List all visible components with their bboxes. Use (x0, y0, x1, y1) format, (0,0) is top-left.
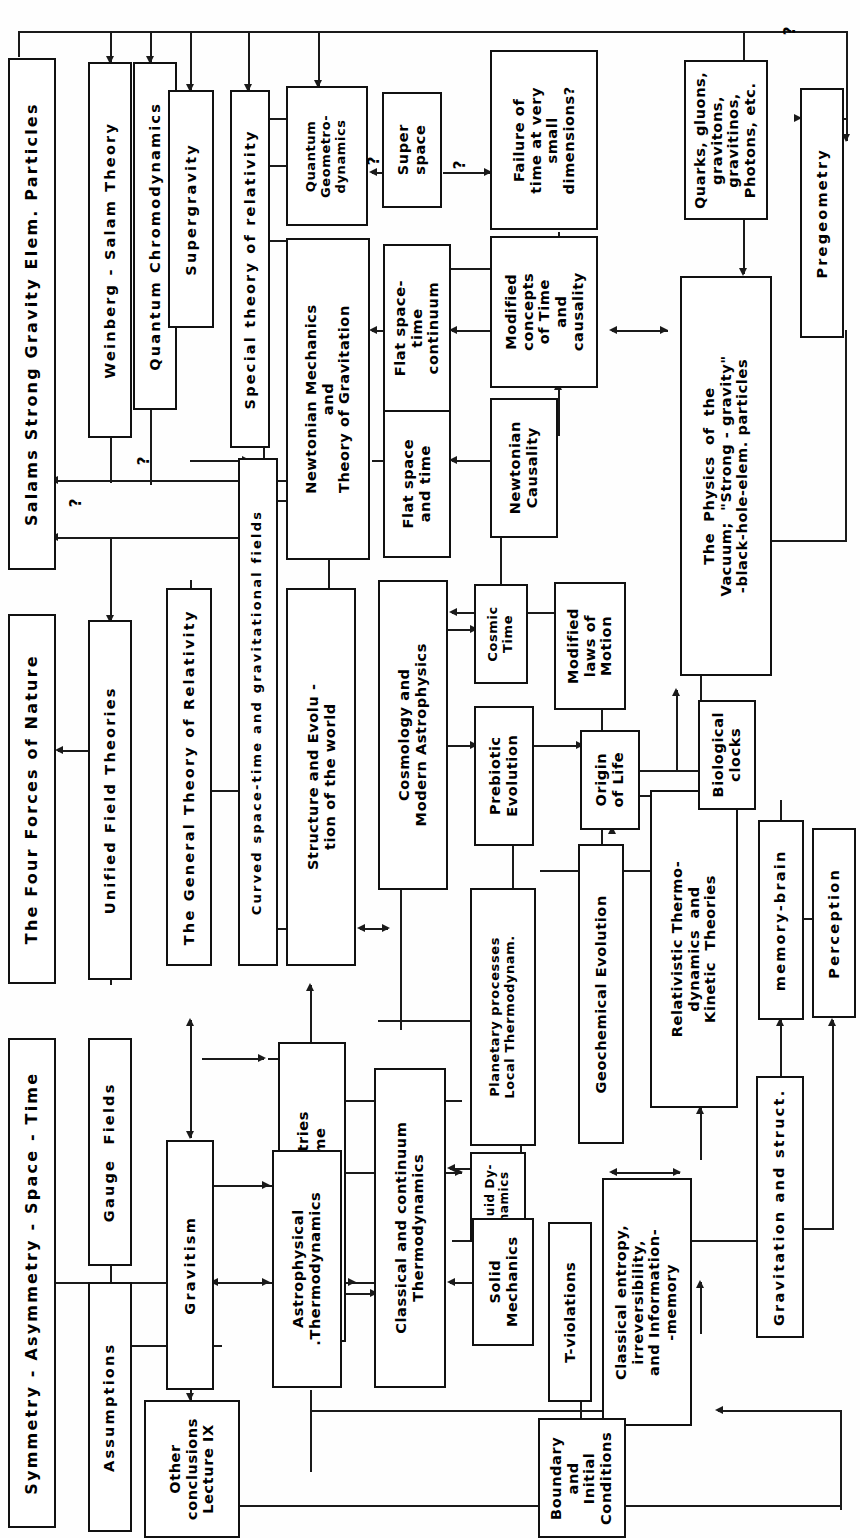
node-label: Gravitism (182, 1216, 199, 1315)
node-label: Relativistic Thermo- dynamics and Kineti… (669, 861, 719, 1038)
arrow-head (447, 1164, 455, 1172)
node-special-relativity[interactable]: Special theory of relativity (230, 90, 270, 448)
node-perception[interactable]: Perception (812, 828, 856, 1018)
connector (190, 31, 192, 91)
node-other-conclusions[interactable]: Other conclusions Lecture IX (144, 1400, 240, 1538)
node-gravitation-and-struct[interactable]: Gravitation and struct. (756, 1076, 804, 1338)
node-label: Unified Field Theories (102, 686, 119, 914)
connector (318, 31, 320, 87)
node-label: The Four Forces of Nature (23, 654, 41, 944)
node-modified-concepts-time[interactable]: Modified concepts of Time and causality (490, 236, 598, 388)
node-label: Curved space-time and gravitational fiel… (251, 509, 266, 914)
node-label: Boundary and Initial Conditions (549, 1431, 616, 1524)
node-label: Flat space and time (400, 439, 433, 529)
node-failure-of-time[interactable]: Failure of time at very small dimensions… (490, 50, 598, 230)
node-biological-clocks[interactable]: Biological clocks (698, 700, 756, 810)
node-label: Modified concepts of Time and causality (502, 273, 585, 352)
node-pregeometry[interactable]: Pregeometry (800, 88, 844, 338)
node-astrophysical-thermodynamics[interactable]: Astrophysical .Thermodynamics (272, 1150, 342, 1388)
node-memory-brain[interactable]: memory-brain (758, 820, 804, 1020)
node-label: Perception (826, 868, 843, 979)
node-label: Quantum Geometro- dynamics (305, 114, 350, 197)
arrow-head (55, 746, 63, 754)
node-quantum-geometrodynamics[interactable]: Quantum Geometro- dynamics (286, 86, 368, 226)
node-quarks-gluons[interactable]: Quarks, gluons, gravitons, gravitinos, P… (684, 60, 768, 220)
connector (53, 537, 263, 539)
question-mark-salams-left: ? (67, 499, 85, 508)
node-physics-of-vacuum[interactable]: The Physics of the Vacuum; "Strong - gra… (680, 276, 772, 676)
node-assumptions[interactable]: Assumptions (88, 1282, 132, 1532)
node-unified-field-theories[interactable]: Unified Field Theories (88, 620, 132, 980)
node-supergravity[interactable]: Supergravity (168, 90, 214, 328)
node-label: Modified laws of Motion (565, 608, 615, 684)
connector (640, 770, 702, 772)
arrow-head (357, 924, 365, 932)
node-symmetry[interactable]: Symmetry - Asymmetry - Space - Time (8, 1038, 56, 1528)
node-label: Weinberg - Salam Theory (102, 122, 119, 379)
connector (700, 1108, 702, 1160)
node-structure-evolution[interactable]: Structure and Evolu - tion of the world (286, 588, 356, 966)
node-boundary-initial-conditions[interactable]: Boundary and Initial Conditions (538, 1418, 626, 1538)
node-label: Geochemical Evolution (593, 895, 610, 1093)
node-cosmic-time[interactable]: Cosmic Time (474, 584, 528, 684)
node-label: Classical entropy, irreversibility, and … (614, 1224, 681, 1379)
arrow-head (262, 1181, 270, 1189)
node-flat-spacetime-continuum[interactable]: Flat space- time continuum (383, 244, 451, 412)
connector (780, 1020, 782, 1082)
arrow-head (673, 1168, 681, 1176)
connector (840, 1410, 842, 1510)
connector (18, 31, 846, 33)
node-weinberg-salam[interactable]: Weinberg - Salam Theory (88, 62, 132, 438)
node-label: T-violations (562, 1262, 579, 1363)
node-prebiotic-evolution[interactable]: Prebiotic Evolution (474, 706, 534, 846)
node-planetary-processes[interactable]: Planetary processes Local Thermodynam. (470, 888, 536, 1146)
node-label: The Physics of the Vacuum; "Strong - gra… (701, 355, 751, 596)
connector (700, 1282, 702, 1334)
question-mark-quantum-geom: ? (365, 157, 383, 166)
node-four-forces[interactable]: The Four Forces of Nature (8, 614, 56, 984)
node-gravitism[interactable]: Gravitism (166, 1140, 214, 1390)
node-solid-mechanics[interactable]: Solid Mechanics (472, 1218, 534, 1346)
node-relativistic-thermodynamics[interactable]: Relativistic Thermo- dynamics and Kineti… (650, 790, 738, 1108)
node-salams[interactable]: Salams Strong Gravity Elem. Particles (8, 58, 56, 570)
node-label: Newtonian Causality (507, 421, 540, 514)
node-newtonian-mechanics[interactable]: Newtonian Mechanics and Theory of Gravit… (286, 238, 370, 560)
connector (222, 1505, 842, 1507)
node-curved-spacetime[interactable]: Curved space-time and gravitational fiel… (238, 458, 278, 966)
node-newtonian-causality[interactable]: Newtonian Causality (490, 398, 558, 538)
arrow-head (447, 1278, 455, 1286)
node-superspace[interactable]: Super space (382, 92, 442, 208)
node-label: Supergravity (183, 143, 200, 276)
node-label: Quarks, gluons, gravitons, gravitinos, P… (693, 71, 760, 209)
node-classical-continuum-thermodynamics[interactable]: Classical and continuum Thermodynamics (374, 1068, 446, 1388)
node-label: Origin of Life (593, 752, 626, 808)
node-label: Other conclusions Lecture IX (167, 1418, 217, 1520)
node-origin-of-life[interactable]: Origin of Life (580, 730, 640, 830)
node-label: The General Theory of Relativity (181, 609, 198, 945)
connector (558, 384, 560, 436)
node-gauge-fields[interactable]: Gauge Fields (88, 1038, 132, 1266)
node-cosmology-astrophysics[interactable]: Cosmology and Modern Astrophysics (378, 580, 448, 890)
node-label: Newtonian Mechanics and Theory of Gravit… (303, 304, 353, 494)
node-label: Quantum Chromodynamics (147, 102, 164, 371)
node-label: Biological clocks (710, 712, 743, 798)
connector (310, 1410, 620, 1412)
node-label: Super space (395, 124, 428, 175)
node-general-theory-relativity[interactable]: The General Theory of Relativity (166, 588, 212, 966)
diagram-canvas: Symmetry - Asymmetry - Space - Time The … (0, 0, 860, 1538)
arrow-head (672, 688, 680, 696)
arrow-head (306, 983, 314, 991)
connector (676, 690, 678, 772)
arrow-head (258, 1054, 266, 1062)
arrow-head (696, 1280, 704, 1288)
node-classical-entropy[interactable]: Classical entropy, irreversibility, and … (602, 1178, 692, 1426)
node-geochemical-evolution[interactable]: Geochemical Evolution (578, 844, 624, 1144)
node-t-violations[interactable]: T-violations (548, 1222, 592, 1402)
node-label: Prebiotic Evolution (487, 735, 520, 817)
node-label: Structure and Evolu - tion of the world (304, 684, 337, 871)
connector (743, 216, 745, 274)
node-flat-space-and-time[interactable]: Flat space and time (383, 410, 451, 558)
connector (248, 31, 250, 91)
connector (310, 985, 312, 1047)
node-modified-laws-motion[interactable]: Modified laws of Motion (554, 582, 626, 710)
